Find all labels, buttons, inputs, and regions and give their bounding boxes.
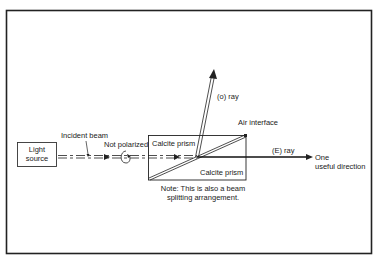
note-label: Note: This is also a beam splitting arra… [155,184,251,202]
useful-direction-label: One useful direction [315,153,365,171]
air-interface-marker [244,134,247,137]
useful-direction-line2: useful direction [315,162,365,171]
e-ray-label: (E) ray [272,146,295,155]
unpolarized-rotation-icon [121,151,131,163]
incident-beam-pointer [86,141,88,154]
note-line2: splitting arrangement. [155,193,251,202]
calcite-prism-top-label: Calcite prism [152,139,195,148]
not-polarized-label: Not polarized [104,140,148,149]
light-source-label-line1: Light [17,145,57,154]
e-ray-arrowhead-icon [306,154,313,160]
light-source-label-line2: source [17,154,57,163]
calcite-prism-bottom-label: Calcite prism [200,168,243,177]
o-ray-label: (o) ray [217,92,239,101]
o-ray-line [196,76,215,157]
air-interface-label: Air interface [238,118,278,127]
o-ray-arrowhead-icon [209,69,217,79]
note-line1: Note: This is also a beam [155,184,251,193]
useful-direction-line1: One [315,153,365,162]
beam-arrow-icon [174,154,180,160]
beam-arrow-icon [104,154,110,160]
light-source-label: Light source [17,145,57,163]
diagram-canvas [0,0,382,265]
incident-beam-label: Incident beam [61,131,108,140]
